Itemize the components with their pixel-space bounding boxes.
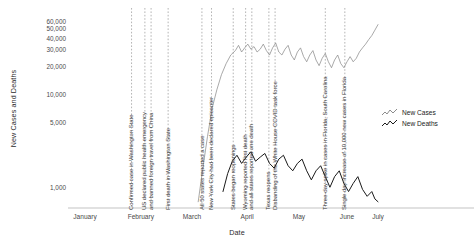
legend-line-icon: [382, 108, 398, 117]
annotation-label: and all states reported one death: [248, 124, 254, 210]
annotation-label: and banned foreign travel from China: [148, 113, 154, 210]
annotation-label: Confirmed case in Washington State: [128, 115, 134, 210]
annotation-label: States began reopenings: [230, 144, 236, 210]
y-tick-label: 30,000: [46, 46, 66, 53]
annotation-label: First death in Washington State: [165, 128, 171, 210]
legend-label: New Deaths: [402, 120, 438, 127]
x-tick-label: March: [183, 213, 201, 220]
legend-item: New Deaths: [382, 118, 438, 129]
annotation-label: Three-day spike in cases in Florida, Sou…: [322, 76, 328, 210]
annotation-label: Disbanding of the White House COVID task…: [272, 81, 278, 210]
annotation-label: All 50 states reported a case: [199, 135, 205, 210]
legend-item: New Cases: [382, 107, 438, 118]
chart-legend: New CasesNew Deaths: [382, 107, 438, 129]
annotation-label: Single day increase of 10,000 new cases …: [341, 77, 347, 210]
legend-line-icon: [382, 119, 398, 128]
y-tick-label: 5,000: [50, 118, 66, 125]
x-tick-label: June: [340, 213, 354, 220]
y-tick-label: 50,000: [46, 25, 66, 32]
x-tick-label: July: [372, 213, 384, 220]
annotation-label: US declared public health emergency: [141, 112, 147, 210]
y-tick-label: 1,000: [50, 184, 66, 191]
covid-cases-deaths-chart: New Cases and Deaths Date 60,00050,00040…: [0, 0, 474, 244]
x-tick-label: February: [128, 213, 154, 220]
y-axis-ticks: 60,00050,00040,00030,00020,00010,0005,00…: [0, 0, 66, 244]
x-axis-title: Date: [0, 228, 474, 237]
y-tick-label: 10,000: [46, 90, 66, 97]
annotation-label: Texas reopens: [265, 172, 271, 210]
x-tick-label: April: [241, 213, 254, 220]
y-tick-label: 60,000: [46, 18, 66, 25]
legend-label: New Cases: [402, 109, 436, 116]
y-tick-label: 40,000: [46, 34, 66, 41]
y-tick-label: 20,000: [46, 62, 66, 69]
x-tick-label: January: [73, 213, 96, 220]
annotation-label: New York City had been declared epicente…: [208, 97, 214, 210]
series-line-new-cases: [198, 25, 378, 202]
x-tick-label: May: [293, 213, 305, 220]
